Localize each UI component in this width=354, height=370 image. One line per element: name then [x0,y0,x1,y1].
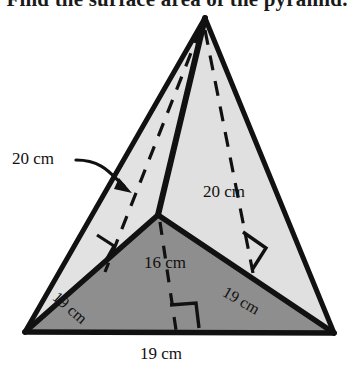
base-edge-front [25,332,334,333]
label-base-altitude: 16 cm [144,254,186,271]
label-slant-height-right: 20 cm [203,183,245,200]
figure-canvas: Find the surface area of the pyramid. [0,0,354,370]
pyramid-diagram [0,0,354,370]
label-base-edge-front: 19 cm [140,345,182,362]
label-slant-height-left: 20 cm [12,150,54,167]
